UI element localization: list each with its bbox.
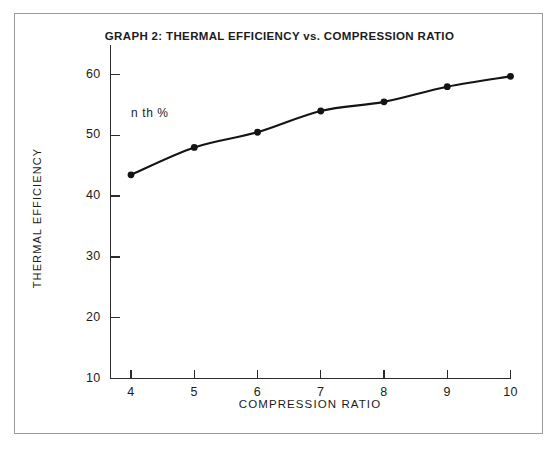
- y-tick-label: 20: [67, 310, 101, 324]
- x-tick-label: 9: [433, 385, 461, 399]
- data-point: [191, 144, 198, 151]
- x-tick-label: 7: [307, 385, 335, 399]
- data-point-markers: [128, 73, 514, 178]
- y-tick-label: 60: [67, 67, 101, 81]
- data-point: [128, 171, 135, 178]
- data-point: [317, 108, 324, 115]
- x-tick-label: 10: [497, 385, 525, 399]
- x-tick-label: 5: [180, 385, 208, 399]
- data-point: [254, 129, 261, 136]
- x-tick-label: 4: [117, 385, 145, 399]
- x-axis-title: COMPRESSION RATIO: [110, 398, 510, 410]
- data-point: [444, 83, 451, 90]
- efficiency-curve: [131, 76, 511, 175]
- y-tick-label: 50: [67, 127, 101, 141]
- x-tick-label: 8: [370, 385, 398, 399]
- data-point: [381, 98, 388, 105]
- data-point: [507, 73, 514, 80]
- tick-marks: [111, 75, 511, 379]
- axes-group: [111, 45, 511, 379]
- eta-thermal-annotation: n th %: [131, 106, 169, 120]
- y-tick-label: 30: [67, 249, 101, 263]
- chart-figure: GRAPH 2: THERMAL EFFICIENCY vs. COMPRESS…: [0, 0, 559, 455]
- x-tick-label: 6: [244, 385, 272, 399]
- y-tick-label: 40: [67, 188, 101, 202]
- y-tick-label: 10: [67, 371, 101, 385]
- y-axis-title: THERMAL EFFICIENCY: [31, 133, 43, 303]
